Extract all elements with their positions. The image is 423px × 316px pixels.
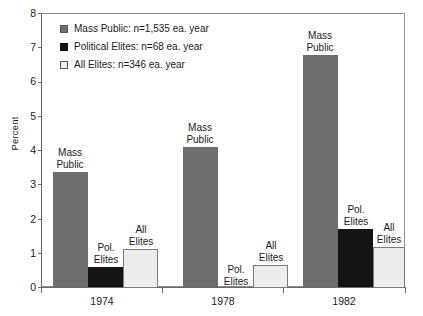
caption-line-1: All bbox=[265, 240, 276, 251]
caption-line-2: Elites bbox=[377, 234, 401, 245]
caption-line-1: Mass bbox=[308, 30, 332, 41]
legend: Mass Public: n=1,535 ea. year Political … bbox=[60, 20, 209, 74]
caption-line-1: Mass bbox=[188, 122, 212, 133]
x-tick-label-1982: 1982 bbox=[314, 295, 374, 307]
bar-caption-1978-all-elites: All Elites bbox=[241, 240, 301, 263]
bar-1982-mass-public bbox=[303, 55, 338, 287]
y-tick-label-6: 6 bbox=[14, 75, 36, 87]
y-axis-title: Percent bbox=[9, 94, 20, 174]
bar-caption-1974-mass-public: Mass Public bbox=[40, 147, 100, 170]
caption-line-2: Public bbox=[186, 134, 213, 145]
caption-line-1: Pol. bbox=[347, 204, 364, 215]
x-tick-mark-start bbox=[41, 288, 42, 293]
y-tick-label-4: 4 bbox=[14, 144, 36, 156]
bar-1982-all-elites bbox=[373, 247, 405, 288]
x-tick-mark-2 bbox=[283, 288, 284, 293]
caption-line-1: Mass bbox=[58, 147, 82, 158]
x-tick-mark-1 bbox=[162, 288, 163, 293]
y-tick-label-8: 8 bbox=[14, 7, 36, 19]
caption-line-2: Elites bbox=[224, 276, 248, 287]
bar-chart: Percent 8 7 6 5 4 3 2 1 0 Mass Public: n… bbox=[0, 0, 423, 316]
x-tick-label-1978: 1978 bbox=[193, 295, 253, 307]
legend-label-mass-public: Mass Public: n=1,535 ea. year bbox=[74, 23, 209, 34]
caption-line-2: Elites bbox=[129, 236, 153, 247]
y-tick-label-7: 7 bbox=[14, 41, 36, 53]
legend-label-all-elites: All Elites: n=346 ea. year bbox=[74, 59, 185, 70]
gray-filled-swatch-icon bbox=[60, 25, 68, 33]
bar-1974-mass-public bbox=[53, 172, 88, 287]
x-axis-line bbox=[41, 287, 406, 288]
legend-item-mass-public: Mass Public: n=1,535 ea. year bbox=[60, 20, 209, 37]
x-tick-label-1974: 1974 bbox=[72, 295, 132, 307]
bar-caption-1978-political-elites: Pol. Elites bbox=[206, 264, 266, 287]
legend-item-political-elites: Political Elites: n=68 ea. year bbox=[60, 38, 209, 55]
caption-line-1: All bbox=[383, 222, 394, 233]
black-filled-swatch-icon bbox=[60, 43, 68, 51]
legend-label-political-elites: Political Elites: n=68 ea. year bbox=[74, 41, 203, 52]
y-tick-label-3: 3 bbox=[14, 178, 36, 190]
bar-caption-1982-mass-public: Mass Public bbox=[290, 30, 350, 53]
bar-caption-1974-all-elites: All Elites bbox=[111, 224, 171, 247]
caption-line-2: Elites bbox=[259, 252, 283, 263]
caption-line-2: Public bbox=[306, 42, 333, 53]
caption-line-2: Public bbox=[56, 159, 83, 170]
bar-caption-1982-all-elites: All Elites bbox=[359, 222, 419, 245]
white-outlined-swatch-icon bbox=[60, 61, 68, 69]
y-tick-label-0: 0 bbox=[14, 281, 36, 293]
legend-item-all-elites: All Elites: n=346 ea. year bbox=[60, 56, 209, 73]
x-tick-mark-end bbox=[405, 288, 406, 293]
caption-line-1: Pol. bbox=[227, 264, 244, 275]
bar-1974-political-elites bbox=[88, 267, 123, 287]
caption-line-1: All bbox=[135, 224, 146, 235]
y-tick-label-2: 2 bbox=[14, 213, 36, 225]
bar-caption-1978-mass-public: Mass Public bbox=[170, 122, 230, 145]
y-tick-label-5: 5 bbox=[14, 110, 36, 122]
caption-line-2: Elites bbox=[94, 254, 118, 265]
y-tick-label-1: 1 bbox=[14, 247, 36, 259]
